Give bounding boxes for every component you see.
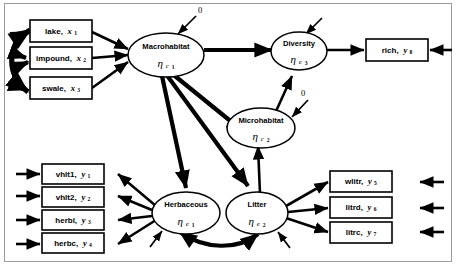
box-herbl-sub: 3 xyxy=(88,220,91,226)
svg-text:impound, x 2: impound, x 2 xyxy=(36,53,86,64)
node-macrohabitat-index: 1 xyxy=(172,64,175,70)
node-litter-index: 2 xyxy=(263,222,266,228)
paths-x-to-macrohabitat xyxy=(92,32,128,88)
sem-path-diagram: 0 0 xyxy=(0,0,458,267)
disturbance-microhabitat xyxy=(292,100,308,117)
svg-text:herbc, y 4: herbc, y 4 xyxy=(54,238,92,249)
disturbance-litter xyxy=(278,232,290,248)
node-microhabitat[interactable]: Microhabitat η c 2 xyxy=(227,108,295,148)
node-litter-subscript: e xyxy=(257,219,260,227)
errors-herbaceous-indicators xyxy=(16,174,40,244)
box-impound-label: impound, xyxy=(36,54,72,63)
box-litrd-var: y xyxy=(367,202,372,212)
box-litrd-label: litrd, xyxy=(346,203,363,212)
zero-label-microhabitat: 0 xyxy=(301,88,305,98)
box-herbc[interactable]: herbc, y 4 xyxy=(42,233,104,253)
node-herbaceous-eta: η xyxy=(178,215,183,227)
path-litter-wlitr xyxy=(286,182,328,206)
box-herbc-sub: 4 xyxy=(89,243,92,249)
node-litter[interactable]: Litter η e 2 xyxy=(226,192,288,234)
box-litrc[interactable]: litrc, y 7 xyxy=(330,222,392,243)
box-impound-sub: 2 xyxy=(83,58,86,64)
path-lake-macrohabitat xyxy=(92,32,128,49)
node-microhabitat-label: Microhabitat xyxy=(238,116,284,125)
box-litrd-sub: 6 xyxy=(374,207,377,213)
svg-text:lake, x 1: lake, x 1 xyxy=(45,26,77,37)
box-litrc-var: y xyxy=(366,227,371,237)
box-vhlt2-label: vhlt2, xyxy=(56,193,77,202)
box-rich[interactable]: rich, y 8 xyxy=(366,39,428,61)
box-swale-var: x xyxy=(70,83,76,93)
box-wlitr-var: y xyxy=(367,176,372,186)
node-diversity-eta: η xyxy=(291,53,296,65)
box-vhlt1-var: y xyxy=(80,169,85,179)
box-vhlt1[interactable]: vhlt1, y 1 xyxy=(42,164,104,184)
box-swale-sub: 3 xyxy=(77,88,80,94)
node-microhabitat-subscript: c xyxy=(261,134,265,142)
node-diversity-index: 3 xyxy=(305,60,308,66)
box-vhlt2-var: y xyxy=(80,192,85,202)
box-vhlt2[interactable]: vhlt2, y 2 xyxy=(42,187,104,207)
box-lake-sub: 1 xyxy=(74,31,77,37)
svg-text:vhlt2, y 2: vhlt2, y 2 xyxy=(56,192,91,203)
box-litrc-label: litrc, xyxy=(346,228,363,237)
svg-text:vhlt1, y 1: vhlt1, y 1 xyxy=(56,169,91,180)
node-macrohabitat-eta: η xyxy=(158,57,163,69)
node-diversity-subscript: e xyxy=(299,57,302,65)
node-diversity[interactable]: Diversity η e 3 xyxy=(271,32,327,70)
svg-text:litrd, y 6: litrd, y 6 xyxy=(346,202,377,213)
path-litter-litrd xyxy=(288,208,328,212)
box-rich-var: y xyxy=(402,45,407,55)
box-herbl-label: herbl, xyxy=(55,216,77,225)
node-diversity-label: Diversity xyxy=(283,39,316,48)
path-swale-macrohabitat xyxy=(92,62,128,88)
disturbance-herbaceous xyxy=(150,231,162,247)
box-impound-var: x xyxy=(76,53,82,63)
box-herbc-label: herbc, xyxy=(54,239,78,248)
box-lake-var: x xyxy=(67,26,73,36)
box-herbl[interactable]: herbl, y 3 xyxy=(42,210,104,230)
disturbance-macrohabitat xyxy=(178,16,196,34)
disturbance-diversity xyxy=(306,18,322,34)
box-lake[interactable]: lake, x 1 xyxy=(30,20,92,42)
box-wlitr-label: wlitr, xyxy=(344,177,363,186)
box-vhlt1-label: vhlt1, xyxy=(56,170,77,179)
svg-text:litrc, y 7: litrc, y 7 xyxy=(346,227,377,238)
box-rich-label: rich, xyxy=(382,46,399,55)
diagram-canvas: 0 0 xyxy=(0,0,458,267)
path-impound-macrohabitat xyxy=(92,55,128,58)
svg-text:rich, y 8: rich, y 8 xyxy=(382,45,413,56)
node-herbaceous-label: Herbaceous xyxy=(164,200,207,209)
node-litter-eta: η xyxy=(249,215,254,227)
box-impound[interactable]: impound, x 2 xyxy=(30,47,92,69)
box-wlitr[interactable]: wlitr, y 5 xyxy=(330,171,392,192)
box-litrd[interactable]: litrd, y 6 xyxy=(330,197,392,218)
box-vhlt1-sub: 1 xyxy=(87,174,90,180)
box-herbl-var: y xyxy=(81,215,86,225)
svg-text:herbl, y 3: herbl, y 3 xyxy=(55,215,91,226)
svg-text:wlitr, y 5: wlitr, y 5 xyxy=(344,176,377,187)
svg-text:swale, x 3: swale, x 3 xyxy=(42,83,80,94)
node-herbaceous[interactable]: Herbaceous η e 1 xyxy=(152,192,220,234)
path-herbaceous-herbl xyxy=(118,216,152,220)
node-macrohabitat-subscript: c xyxy=(166,61,170,69)
node-herbaceous-index: 1 xyxy=(192,222,195,228)
node-macrohabitat[interactable]: Macrohabitat η c 1 xyxy=(128,33,204,77)
paths-litter-indicators xyxy=(286,182,328,232)
box-rich-sub: 8 xyxy=(409,50,412,56)
box-lake-label: lake, xyxy=(45,27,63,36)
zero-label-macrohabitat: 0 xyxy=(198,5,202,15)
box-litrc-sub: 7 xyxy=(373,232,376,238)
box-vhlt2-sub: 2 xyxy=(87,197,90,203)
node-herbaceous-subscript: e xyxy=(186,219,189,227)
box-herbc-var: y xyxy=(82,238,87,248)
correlation-arcs-exogenous xyxy=(12,30,30,92)
path-herbaceous-vhlt1 xyxy=(118,174,156,206)
node-microhabitat-eta: η xyxy=(253,130,258,142)
paths-herbaceous-indicators xyxy=(118,174,156,244)
node-macrohabitat-label: Macrohabitat xyxy=(142,42,190,51)
errors-litter-indicators xyxy=(420,182,444,232)
box-swale[interactable]: swale, x 3 xyxy=(30,77,92,99)
box-swale-label: swale, xyxy=(42,84,66,93)
path-litter-microhabitat xyxy=(258,146,260,194)
